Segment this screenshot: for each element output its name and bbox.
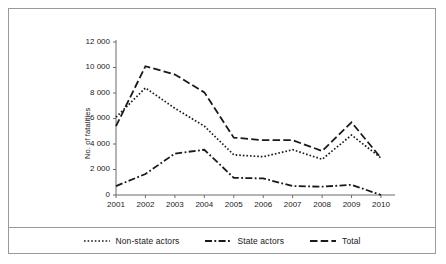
chart-canvas	[9, 9, 435, 225]
x-tick-label: 2004	[190, 200, 218, 209]
legend-label: Total	[342, 236, 360, 246]
series-line-state-actors	[116, 150, 381, 195]
series-line-non-state-actors	[116, 88, 381, 159]
x-tick-label: 2002	[131, 200, 159, 209]
legend-label: Non-state actors	[116, 236, 180, 246]
x-tick-label: 2003	[161, 200, 189, 209]
x-tick-label: 2009	[338, 200, 366, 209]
x-tick-label: 2008	[308, 200, 336, 209]
x-tick-label: 2010	[367, 200, 395, 209]
legend-swatch-dotted	[84, 236, 110, 245]
y-tick-label: 0	[106, 190, 110, 199]
chart-legend: Non-state actorsState actorsTotal	[9, 228, 435, 253]
y-tick-label: 6 000	[90, 113, 110, 122]
plot-area: No. of fatalities 02 0004 0006 0008 0001…	[9, 9, 435, 225]
y-tick-label: 12 000	[86, 37, 110, 46]
x-tick-label: 2005	[220, 200, 248, 209]
legend-swatch-dash-dot	[205, 236, 231, 245]
x-tick-label: 2007	[279, 200, 307, 209]
legend-label: State actors	[237, 236, 284, 246]
legend-swatch-dashed	[310, 236, 336, 245]
y-tick-label: 8 000	[90, 88, 110, 97]
y-tick-label: 4 000	[90, 139, 110, 148]
series-lines	[116, 66, 381, 195]
axis-lines	[113, 40, 395, 198]
legend-entry[interactable]: Total	[310, 236, 360, 246]
y-tick-label: 10 000	[86, 62, 110, 71]
legend-entry[interactable]: State actors	[205, 236, 284, 246]
legend-entry[interactable]: Non-state actors	[84, 236, 180, 246]
y-tick-label: 2 000	[90, 164, 110, 173]
x-tick-label: 2001	[102, 200, 130, 209]
chart-figure: No. of fatalities 02 0004 0006 0008 0001…	[8, 8, 436, 254]
x-tick-label: 2006	[249, 200, 277, 209]
